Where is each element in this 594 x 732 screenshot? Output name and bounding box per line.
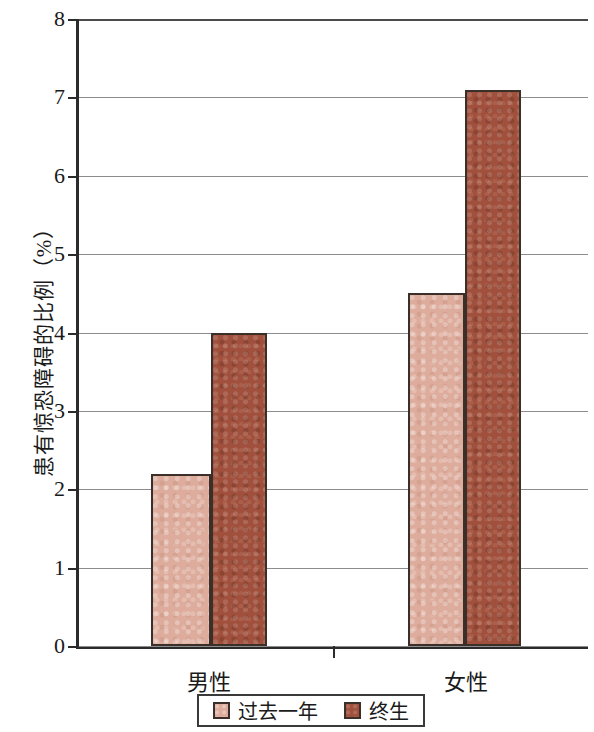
y-axis-tick — [68, 176, 79, 178]
y-axis-tick-label: 8 — [54, 8, 65, 30]
y-axis-tick-label: 6 — [54, 165, 65, 187]
y-axis-tick-label: 5 — [54, 243, 65, 265]
y-axis-tick — [68, 646, 79, 648]
y-axis-tick-label: 0 — [54, 635, 65, 657]
legend-label: 终生 — [369, 696, 409, 725]
legend-item-过去一年: 过去一年 — [213, 696, 318, 725]
y-axis-tick-label: 2 — [54, 478, 65, 500]
y-axis-tick — [68, 97, 79, 99]
y-axis-title: 患有惊恐障碍的比例（%） — [27, 37, 57, 657]
y-axis-tick-label: 3 — [54, 400, 65, 422]
y-axis-tick — [68, 411, 79, 413]
chart-figure: 患有惊恐障碍的比例（%） 012345678 男性女性 过去一年终生 — [0, 0, 594, 732]
legend-swatch-icon — [344, 702, 361, 719]
x-axis-tick — [333, 646, 335, 658]
y-axis-tick-label: 4 — [54, 322, 65, 344]
legend-swatch-icon — [213, 702, 230, 719]
y-axis-tick — [68, 19, 79, 21]
plot-area: 012345678 男性女性 — [76, 19, 588, 649]
legend-label: 过去一年 — [238, 696, 318, 725]
y-axis-tick — [68, 489, 79, 491]
legend-item-终生: 终生 — [344, 696, 409, 725]
chart-legend: 过去一年终生 — [197, 694, 425, 727]
bar-男性-终生 — [211, 333, 267, 647]
y-axis-tick — [68, 568, 79, 570]
y-axis-tick-label: 7 — [54, 86, 65, 108]
x-axis-label-女性: 女性 — [444, 664, 488, 696]
gridline — [79, 19, 588, 21]
x-axis-label-男性: 男性 — [187, 664, 231, 696]
y-axis-tick — [68, 254, 79, 256]
y-axis-tick — [68, 333, 79, 335]
bar-女性-过去一年 — [408, 293, 465, 646]
bar-男性-过去一年 — [151, 474, 211, 646]
y-axis-tick-label: 1 — [54, 557, 65, 579]
bar-女性-终生 — [465, 90, 521, 646]
